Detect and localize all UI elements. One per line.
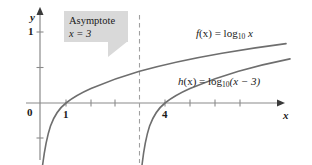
- curve-label-f-arg: (x) = log: [199, 27, 238, 39]
- tick-label-y-one: 1: [28, 26, 34, 37]
- x-axis-label: x: [283, 110, 289, 121]
- asymptote-callout: Asymptote x = 3: [64, 11, 128, 42]
- curve-label-h-base: 10: [222, 80, 230, 89]
- curve-label-f-base: 10: [238, 32, 246, 41]
- curve-label-f: f(x) = log10 x: [196, 28, 253, 39]
- callout-equation: x = 3: [69, 27, 128, 40]
- tick-label-origin: 0: [27, 107, 33, 118]
- tick-label-x-four: 4: [162, 109, 168, 120]
- callout-title: Asymptote: [69, 14, 128, 27]
- curve-label-h: h(x) = log10(x − 3): [178, 76, 260, 87]
- tick-label-x-one: 1: [63, 109, 69, 120]
- y-axis-label: y: [30, 12, 35, 23]
- logarithmic-function-graph: y x 0 1 1 4 f(x) = log10 x h(x) = log10(…: [0, 0, 312, 165]
- curve-label-h-arg: (x) = log: [184, 75, 223, 87]
- callout-tail: [108, 41, 128, 57]
- curve-label-h-tail: (x − 3): [230, 75, 261, 87]
- plot-area: [0, 0, 312, 165]
- curve-label-f-tail: x: [245, 27, 253, 39]
